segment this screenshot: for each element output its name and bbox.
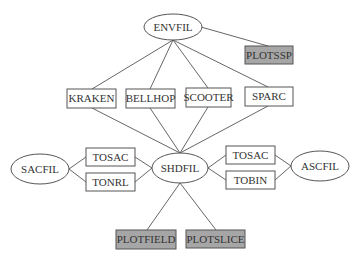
node-label: SHDFIL	[161, 162, 200, 174]
node-kraken: KRAKEN	[67, 89, 116, 108]
edge-tosac-shdfil	[135, 157, 152, 168]
node-tobin: TOBIN	[226, 171, 275, 189]
node-tonrl: TONRL	[86, 173, 135, 191]
node-sacfil: SACFIL	[11, 154, 69, 184]
node-label: BELLHOP	[126, 92, 176, 104]
node-label: ENVFIL	[153, 21, 192, 33]
edge-envfil-plotssp	[201, 27, 268, 46]
edge-shdfil-tosac	[208, 155, 226, 168]
acoustics-toolbox-flow-diagram: ENVFIL PLOTSSP KRAKEN BELLHOP SCOOTER SP…	[0, 0, 358, 262]
node-label: PLOTSSP	[246, 49, 292, 61]
node-shdfil: SHDFIL	[152, 153, 208, 183]
edge-envfil-kraken	[92, 40, 173, 89]
node-plotslice: PLOTSLICE	[186, 230, 245, 248]
edge-scooter-shdfil	[180, 107, 208, 153]
edge-tobin-ascfil	[275, 166, 291, 180]
edge-tosac-ascfil	[275, 155, 291, 166]
edge-sacfil-tosac	[69, 157, 86, 169]
node-label: TOBIN	[234, 174, 267, 186]
edge-sacfil-tonrl	[69, 169, 86, 182]
node-label: KRAKEN	[69, 92, 115, 104]
edge-shdfil-plotslice	[180, 183, 216, 230]
node-label: TOSAC	[93, 151, 129, 163]
edge-shdfil-tobin	[208, 168, 226, 180]
node-label: PLOTSLICE	[186, 233, 244, 245]
node-sparc: SPARC	[245, 87, 293, 106]
edge-tonrl-shdfil	[135, 168, 152, 182]
node-tosac-left: TOSAC	[86, 148, 135, 166]
node-label: ASCFIL	[301, 160, 339, 172]
node-envfil: ENVFIL	[144, 14, 202, 40]
node-label: SCOOTER	[183, 91, 234, 103]
node-label: PLOTFIELD	[117, 233, 176, 245]
edge-envfil-scooter	[173, 40, 208, 88]
node-label: SPARC	[252, 90, 286, 102]
edge-shdfil-plotfield	[147, 183, 180, 230]
node-plotssp: PLOTSSP	[245, 46, 293, 64]
node-label: TONRL	[92, 176, 129, 188]
node-ascfil: ASCFIL	[291, 151, 349, 181]
node-tosac-right: TOSAC	[226, 146, 275, 164]
edge-kraken-shdfil	[92, 108, 180, 153]
edge-bellhop-shdfil	[150, 108, 180, 153]
node-bellhop: BELLHOP	[126, 89, 176, 108]
node-label: SACFIL	[21, 163, 59, 175]
node-scooter: SCOOTER	[183, 88, 234, 107]
node-label: TOSAC	[233, 149, 269, 161]
node-plotfield: PLOTFIELD	[116, 230, 176, 249]
